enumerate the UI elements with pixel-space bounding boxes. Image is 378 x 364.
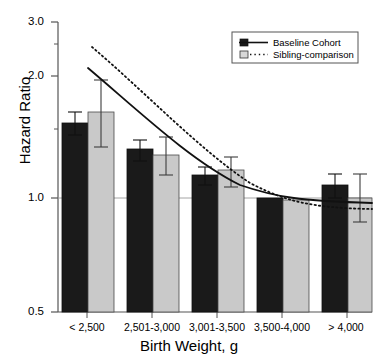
legend-label-sibling: Sibling-comparison [273,49,354,60]
bar-baseline-3 [192,175,218,312]
x-tick-label-4: 3,500-4,000 [243,321,321,333]
bar-group-3 [192,157,244,312]
x-axis-title: Birth Weight, g [0,337,378,354]
bar-baseline-2 [127,149,153,312]
bar-sibling-3 [218,170,244,312]
x-axis-ticks [87,312,347,318]
y-tick-label-0p5: 0.5 [14,305,44,317]
bar-group-4 [257,198,309,312]
bar-sibling-4 [283,200,309,312]
bar-group-2 [127,137,179,312]
chart-figure: Baseline Cohort Sibling-comparison 3.0 2… [0,0,378,364]
y-tick-label-1: 1.0 [14,191,44,203]
bar-group-5 [322,174,372,312]
bar-baseline-1 [62,123,88,312]
bar-group-1 [62,80,114,312]
x-tick-label-5: > 4,000 [313,321,378,333]
bar-baseline-5 [322,185,348,312]
bar-baseline-4 [257,198,283,312]
y-axis-title: Hazard Ratio [16,51,33,191]
legend-label-baseline: Baseline Cohort [273,37,341,48]
bar-sibling-2 [153,155,179,312]
y-axis-major-ticks [51,22,58,312]
x-tick-label-1: < 2,500 [52,321,122,333]
legend-marker-sibling-square [240,51,248,58]
y-tick-label-3: 3.0 [14,15,44,27]
